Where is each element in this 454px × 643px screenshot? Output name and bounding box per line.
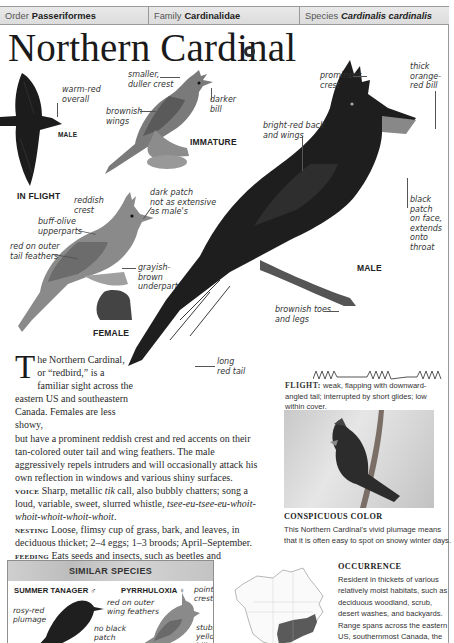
leader-line <box>57 103 58 117</box>
annotation-red-on-outer-wing-feathers: red on outer wing feathers <box>107 598 159 616</box>
annotation-rosy-red-plumage: rosy-red plumage <box>13 606 46 624</box>
photo-caption-title: CONSPICUOUS COLOR <box>284 512 382 521</box>
flight-pattern-diagram <box>313 368 453 382</box>
nesting-paragraph: NESTING Loose, flimsy cup of grass, bark… <box>15 523 267 549</box>
photo-caption-text: This Northern Cardinal’s vivid plumage m… <box>284 524 454 546</box>
annotation-bright-red-back-and-wings: bright-red back and wings <box>263 121 325 140</box>
leader-line <box>435 91 436 129</box>
nesting-text: Loose, flimsy cup of grass, bark, and le… <box>15 524 252 548</box>
occurrence-text: Resident in thickets of various relative… <box>338 574 448 643</box>
range-map <box>233 562 333 643</box>
order-value: Passeriformes <box>32 11 96 21</box>
voice-call: tik <box>105 485 115 496</box>
conspicuous-color-photo <box>284 410 434 508</box>
intro-line: Canada. Females are less showy, <box>15 405 143 431</box>
order-cell: Order Passeriformes <box>0 7 149 24</box>
summer-tanager-name: SUMMER TANAGER ♂ <box>14 586 96 595</box>
intro-line: eastern US and southeastern <box>15 392 143 405</box>
in-flight-sex-label: MALE <box>58 131 77 138</box>
annotation-buff-olive-upperparts: buff-olive upperparts <box>38 217 82 236</box>
annotation-brownish-toes-and-legs: brownish toes and legs <box>275 305 331 324</box>
leader-line <box>407 178 408 208</box>
annotation-reddish-crest: reddish crest <box>74 196 104 215</box>
species-cell: Species Cardinalis cardinalis <box>300 7 449 24</box>
species-description: T he Northern Cardinal, or “redbird,” is… <box>15 353 267 576</box>
flight-label: FLIGHT: <box>285 381 321 390</box>
annotation-stubby-yellow-bill: stubby yellow bill <box>196 623 214 643</box>
similar-species-panel: SIMILAR SPECIES SUMMER TANAGER ♂ PYRRHUL… <box>7 560 214 643</box>
voice-label: VOICE <box>15 485 39 496</box>
order-label: Order <box>5 11 29 21</box>
flight-description: FLIGHT: weak, flapping with downward-ang… <box>285 381 445 413</box>
taxonomy-header: Order Passeriformes Family Cardinalidae … <box>0 6 449 25</box>
family-cell: Family Cardinalidae <box>149 7 300 24</box>
dropcap: T <box>15 354 35 380</box>
leader-line <box>302 136 303 171</box>
annotation-pointed-crest: pointed crest <box>194 585 214 603</box>
family-label: Family <box>154 11 181 21</box>
sound-icon[interactable] <box>244 46 255 57</box>
family-value: Cardinalidae <box>184 11 240 21</box>
species-value: Cardinalis cardinalis <box>341 11 432 21</box>
intro-paragraph: but have a prominent reddish crest and r… <box>15 432 267 484</box>
leader-line <box>353 76 367 77</box>
annotation-thick-orange-red-bill: thick orange- red bill <box>410 62 441 91</box>
voice-text: Sharp, metallic <box>42 485 105 496</box>
annotation-black-patch-on-face: black patch on face, extends onto throat <box>410 195 442 252</box>
male-caption: MALE <box>357 263 382 273</box>
cardinal-photo-image <box>284 410 434 508</box>
leader-line <box>325 311 339 312</box>
similar-species-title: SIMILAR SPECIES <box>8 561 213 581</box>
annotation-prominent-crest: prominent crest <box>320 71 361 90</box>
species-label: Species <box>305 11 338 21</box>
nesting-label: NESTING <box>15 524 49 535</box>
voice-paragraph: VOICE Sharp, metallic tik call, also bub… <box>15 484 267 523</box>
intro-line: or “redbird,” is a <box>23 366 143 379</box>
occurrence-title: OCCURRENCE <box>338 562 401 571</box>
voice-text: . <box>114 511 117 522</box>
annotation-red-on-outer-tail-feathers: red on outer tail feathers <box>10 242 60 261</box>
annotation-no-black-patch: no black patch <box>94 624 126 642</box>
